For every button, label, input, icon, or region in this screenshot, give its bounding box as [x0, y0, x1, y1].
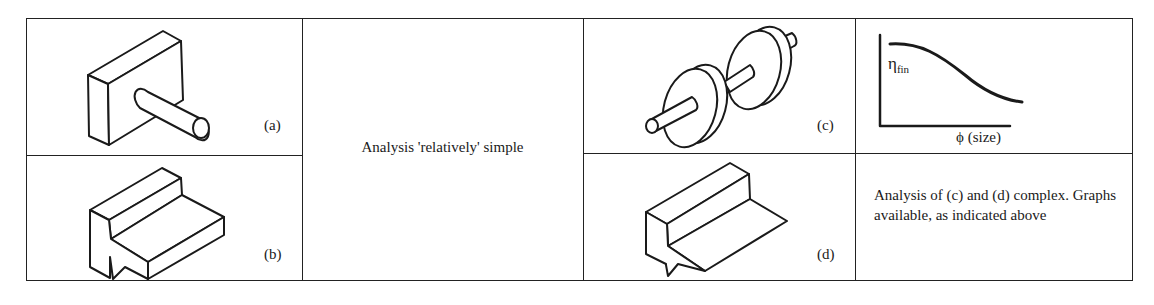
- stepped-rectangular-fin-icon: [0, 145, 310, 305]
- size-axis-label: ϕ (size): [956, 129, 1001, 146]
- plate-with-pin-fin-icon: [0, 0, 310, 160]
- circumferential-annular-fins-on-shaft-icon: [580, 0, 850, 160]
- tapered-triangular-fin-icon: [580, 145, 850, 305]
- fin-label-b: (b): [264, 246, 282, 263]
- complex-analysis-note: Analysis of (c) and (d) complex. Graphs …: [874, 185, 1124, 225]
- fin-label-c: (c): [817, 117, 834, 134]
- fin-label-d: (d): [817, 246, 835, 263]
- simple-analysis-note: Analysis 'relatively' simple: [302, 139, 583, 156]
- fin-label-a: (a): [264, 117, 281, 134]
